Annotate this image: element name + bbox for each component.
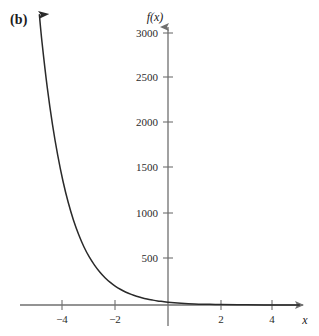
y-axis-title: f(x) — [147, 10, 164, 24]
y-tick-label: 1500 — [136, 161, 159, 173]
y-tick-label: 3000 — [136, 27, 159, 39]
y-tick-label: 1000 — [136, 207, 159, 219]
y-tick-label: 2000 — [136, 116, 159, 128]
y-axis: 500 1000 1500 2000 2500 3000 f(x) — [136, 10, 173, 326]
x-tick-label: −4 — [56, 313, 68, 325]
y-tick-label: 500 — [142, 252, 159, 264]
y-tick-label: 2500 — [136, 71, 159, 83]
x-tick-label: 2 — [218, 313, 224, 325]
data-series-curve — [39, 15, 299, 305]
x-tick-label: −2 — [109, 313, 121, 325]
exponential-decay-chart: −4 −2 2 4 x 500 1000 1500 2000 2500 3000… — [0, 0, 319, 336]
x-axis-title: x — [301, 313, 308, 327]
x-axis: −4 −2 2 4 x — [20, 300, 308, 327]
x-tick-label: 4 — [269, 313, 275, 325]
figure-panel: (b) −4 −2 2 4 x — [0, 0, 319, 336]
